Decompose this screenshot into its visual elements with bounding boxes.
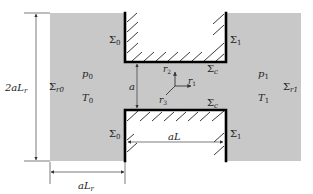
label-2aLr: 2aLr: [4, 82, 28, 95]
label-aLr: aLr: [78, 180, 95, 193]
channel-diagram: 2aLr aLr aL a Σ0 Σ0 Σ1 Σ1 Σc Σc Σr0 Σr1 …: [0, 0, 313, 194]
label-aL: aL: [168, 131, 181, 142]
label-a: a: [129, 81, 135, 92]
top-wall-hatch: [127, 13, 224, 61]
dimension-height: [24, 13, 50, 161]
